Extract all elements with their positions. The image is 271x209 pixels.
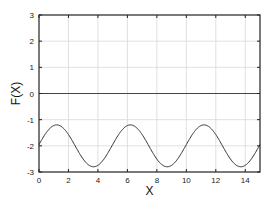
x-tick-label: 2: [66, 176, 71, 185]
x-tick-label: 6: [125, 176, 130, 185]
y-tick-label: 1: [30, 63, 35, 72]
y-axis-label: F(X): [9, 82, 23, 105]
x-tick-label: 0: [37, 176, 42, 185]
x-tick-label: 8: [155, 176, 160, 185]
x-tick-label: 14: [241, 176, 250, 185]
x-tick-label: 12: [211, 176, 220, 185]
x-tick-label: 10: [182, 176, 191, 185]
y-tick-label: -3: [27, 168, 35, 177]
y-tick-label: 0: [30, 90, 35, 99]
x-axis-label: X: [145, 184, 153, 198]
y-tick-label: -2: [27, 142, 35, 151]
y-tick-label: 3: [30, 11, 35, 20]
y-tick-label: 2: [30, 37, 35, 46]
y-tick-label: -1: [27, 116, 35, 125]
x-tick-label: 4: [96, 176, 101, 185]
line-chart: 02468101214 -3-2-10123 X F(X): [0, 0, 271, 209]
